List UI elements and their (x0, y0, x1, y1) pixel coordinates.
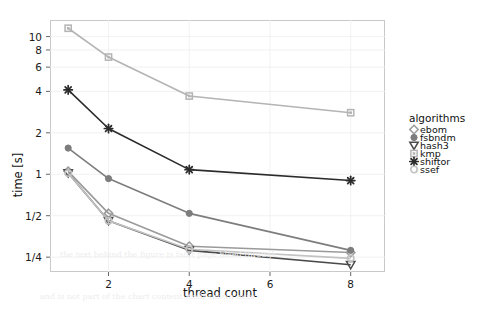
legend: algorithms ebomfsbndmhash3kmpshiftorssef (409, 113, 481, 173)
x-tick-8: 8 (336, 279, 366, 290)
y-tick-4: 4 (2, 86, 42, 97)
legend-label-ssef: ssef (420, 165, 439, 174)
series-fsbndm (65, 145, 354, 254)
circle-light-icon (409, 165, 420, 173)
background-bleed-text-1: the text behind the figure is faint page… (60, 250, 277, 259)
y-axis-title: time [s] (11, 135, 25, 215)
square-icon (409, 149, 420, 157)
circle-icon (409, 125, 420, 133)
asterisk-icon (409, 157, 420, 165)
series-shiftor (64, 86, 355, 185)
background-bleed-text-2: and is not part of the chart content its… (40, 292, 255, 301)
chart-container: 1/41/21246810 2468 thread count time [s]… (0, 0, 482, 311)
triangle-down-icon (409, 141, 420, 149)
y-tick-8: 8 (2, 45, 42, 56)
filled-circle-icon (409, 133, 420, 141)
series-kmp (65, 25, 354, 116)
legend-title: algorithms (409, 113, 481, 124)
legend-item-shiftor[interactable]: shiftor (409, 157, 481, 165)
y-tick-1over4: 1/4 (2, 252, 42, 263)
legend-item-hash3[interactable]: hash3 (409, 141, 481, 149)
y-tick-6: 6 (2, 62, 42, 73)
y-tick-10: 10 (2, 32, 42, 43)
